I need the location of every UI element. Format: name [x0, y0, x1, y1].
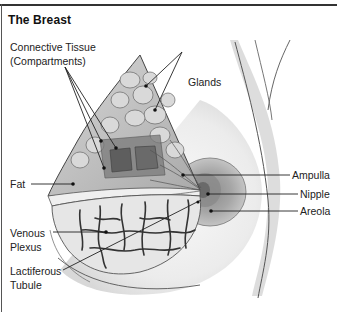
label-areola: Areola	[300, 204, 330, 218]
label-connective-tissue-line1: Connective Tissue	[10, 40, 96, 54]
label-lactiferous-tubule: Lactiferous Tubule	[10, 264, 61, 292]
label-ampulla: Ampulla	[292, 168, 330, 182]
label-venous-line2: Plexus	[10, 240, 45, 254]
diagram-title: The Breast	[8, 13, 71, 27]
diagram-frame: The Breast Connective Tissue (Compartmen…	[0, 0, 337, 312]
label-venous-line1: Venous	[10, 226, 45, 240]
label-lactiferous-line1: Lactiferous	[10, 264, 61, 278]
label-connective-tissue: Connective Tissue (Compartments)	[10, 40, 96, 68]
label-nipple: Nipple	[300, 187, 330, 201]
label-connective-tissue-line2: (Compartments)	[10, 54, 96, 68]
label-venous-plexus: Venous Plexus	[10, 226, 45, 254]
label-lactiferous-line2: Tubule	[10, 278, 61, 292]
label-glands: Glands	[188, 75, 221, 89]
label-fat: Fat	[10, 177, 25, 191]
